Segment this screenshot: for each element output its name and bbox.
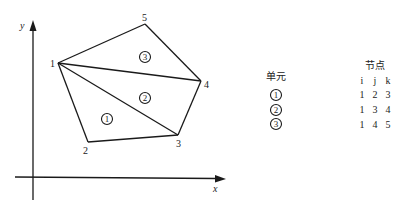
- column-header-i: i: [361, 75, 364, 86]
- row-element-id: 2: [274, 105, 279, 115]
- column-header-j: j: [373, 75, 377, 86]
- mesh-edges: [58, 24, 201, 142]
- element-marker-3: 3: [140, 52, 151, 63]
- fem-mesh-diagram: y x 1 2 3 4 5 1 2 3 单元 节点: [0, 0, 403, 202]
- node-label-2: 2: [83, 145, 88, 156]
- x-axis: [15, 177, 216, 179]
- row-node-k: 5: [386, 119, 391, 130]
- table-row: 3 1 4 5: [271, 119, 391, 131]
- edge-1-5: [58, 24, 145, 63]
- x-axis-arrow-icon: [215, 175, 226, 183]
- y-axis-arrow-icon: [30, 20, 37, 31]
- coordinate-axes: [15, 20, 226, 200]
- element-marker-1: 1: [102, 114, 113, 125]
- element-column-header: 单元: [266, 71, 286, 82]
- element-marker-2: 2: [140, 93, 151, 104]
- row-node-k: 3: [386, 89, 391, 100]
- row-element-id: 3: [274, 119, 279, 129]
- edge-2-1: [58, 63, 88, 142]
- element-marker-3-label: 3: [143, 52, 148, 62]
- table-row: 2 1 3 4: [271, 104, 391, 116]
- row-node-i: 1: [360, 119, 365, 130]
- node-label-3: 3: [176, 138, 181, 149]
- row-node-j: 4: [373, 119, 378, 130]
- edge-1-4: [58, 63, 201, 81]
- row-node-i: 1: [360, 89, 365, 100]
- y-axis-label: y: [19, 20, 25, 31]
- row-node-j: 3: [373, 104, 378, 115]
- node-label-4: 4: [204, 79, 209, 90]
- element-marker-1-label: 1: [105, 114, 110, 124]
- edge-4-3: [178, 81, 201, 135]
- edge-5-4: [145, 24, 201, 81]
- row-element-id: 1: [274, 90, 279, 100]
- x-axis-label: x: [212, 183, 218, 194]
- node-label-1: 1: [50, 58, 55, 69]
- edge-3-2: [88, 135, 178, 142]
- row-node-i: 1: [360, 104, 365, 115]
- connectivity-table: 单元 节点 i j k 1 1 2 3 2 1 3 4 3 1 4 5: [266, 60, 391, 130]
- row-node-k: 4: [386, 104, 391, 115]
- table-row: 1 1 2 3: [271, 89, 391, 101]
- node-column-header: 节点: [365, 60, 385, 71]
- column-header-k: k: [386, 75, 391, 86]
- node-labels: 1 2 3 4 5: [50, 12, 209, 156]
- node-label-5: 5: [142, 12, 147, 23]
- edge-1-3: [58, 63, 178, 135]
- row-node-j: 2: [373, 89, 378, 100]
- element-marker-2-label: 2: [143, 93, 148, 103]
